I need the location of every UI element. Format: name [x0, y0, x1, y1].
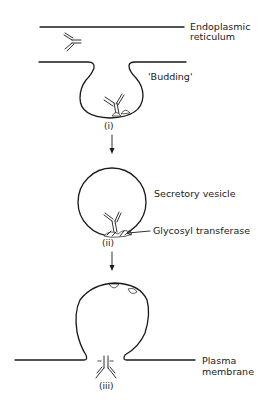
membrane-enzyme-icon	[109, 284, 119, 288]
bud-glycoprotein-enzyme-icon	[104, 94, 130, 116]
membrane-enzyme-icon	[128, 288, 137, 293]
stage-label-i: (i)	[104, 121, 114, 131]
released-glycoprotein-icon	[96, 356, 116, 378]
vesicle-label: Secretory vesicle	[154, 188, 236, 199]
plasma-membrane-label-line1: Plasma	[202, 355, 236, 366]
glycoprotein-secretion-diagram: Endoplasmic reticulum 'Budding' (i) Secr…	[0, 0, 266, 413]
arrow-down-icon	[110, 252, 115, 271]
plasma-membrane-label-line2: membrane	[202, 366, 254, 377]
enzyme-label: Glycosyl transferase	[153, 225, 250, 236]
budding-label: 'Budding'	[148, 71, 193, 82]
stage-label-ii: (ii)	[102, 238, 114, 248]
er-label-line2: reticulum	[190, 31, 235, 42]
glycoprotein-icon	[64, 33, 81, 51]
stage-label-iii: (iii)	[99, 381, 114, 391]
enzyme-pointer	[127, 231, 150, 235]
secretory-vesicle	[78, 168, 146, 236]
plasma-membrane-fusion	[15, 283, 195, 360]
arrow-down-icon	[110, 135, 115, 154]
